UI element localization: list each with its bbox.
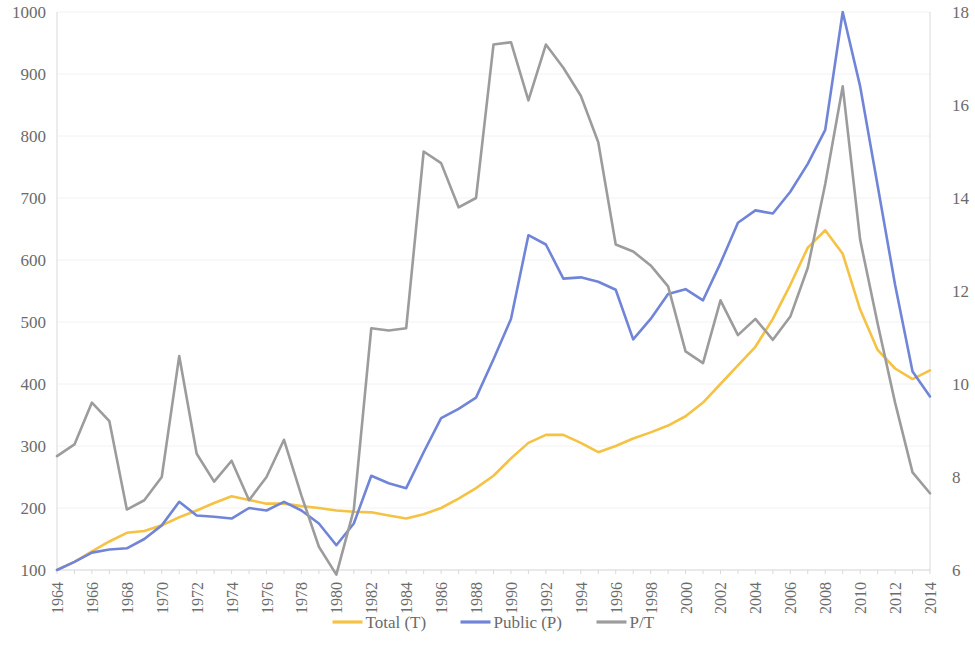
x-axis-tick-label: 1982	[363, 582, 380, 614]
x-axis-tick-label: 1996	[608, 582, 625, 614]
line-chart: 1002003004005006007008009001000 68101214…	[0, 0, 975, 653]
right-axis-tick-label: 8	[952, 468, 961, 487]
left-axis-tick-label: 500	[21, 313, 47, 332]
x-axis-tick-label: 1984	[398, 582, 415, 614]
right-axis-tick-label: 14	[952, 189, 970, 208]
x-axis-tick-label: 2010	[852, 582, 869, 614]
x-axis-tick-label: 1986	[433, 582, 450, 614]
left-axis-tick-label: 1000	[12, 3, 46, 22]
left-axis-tick-label: 900	[21, 65, 47, 84]
legend-item-1[interactable]: Public (P)	[461, 613, 562, 632]
legend-label: P/T	[630, 613, 655, 632]
x-axis-tick-label: 1966	[84, 582, 101, 614]
x-axis-tick-label: 1968	[119, 582, 136, 614]
series-line-pt	[57, 42, 930, 574]
legend-label: Total (T)	[366, 613, 427, 632]
x-axis-tick-label: 2002	[712, 582, 729, 614]
left-axis-tick-label: 800	[21, 127, 47, 146]
x-axis-tick-label: 2012	[887, 582, 904, 614]
chart-container: 1002003004005006007008009001000 68101214…	[0, 0, 975, 653]
x-axis-labels-group: 1964196619681970197219741976197819801982…	[49, 582, 939, 614]
x-axis-tick-label: 1988	[468, 582, 485, 614]
chart-legend: Total (T)Public (P)P/T	[333, 613, 655, 632]
x-axis-tick-label: 2014	[922, 582, 939, 614]
left-axis-tick-label: 200	[21, 499, 47, 518]
right-axis-tick-label: 6	[952, 561, 961, 580]
x-axis-tick-label: 2004	[747, 582, 764, 614]
legend-label: Public (P)	[494, 613, 562, 632]
x-axis-tick-label: 1990	[503, 582, 520, 614]
x-axis-tick-label: 1964	[49, 582, 66, 614]
right-axis-tick-label: 10	[952, 375, 969, 394]
left-axis-tick-label: 700	[21, 189, 47, 208]
x-axis-tick-label: 1980	[328, 582, 345, 614]
left-axis-tick-label: 300	[21, 437, 47, 456]
x-axis-tick-label: 1976	[259, 582, 276, 614]
x-axis-tick-label: 2006	[782, 582, 799, 614]
left-axis-tick-label: 100	[21, 561, 47, 580]
x-axis-tick-label: 1978	[293, 582, 310, 614]
x-axis-tick-label: 2008	[817, 582, 834, 614]
data-series-group	[57, 12, 930, 575]
legend-item-2[interactable]: P/T	[597, 613, 655, 632]
right-axis-tick-label: 18	[952, 3, 969, 22]
left-axis-labels-group: 1002003004005006007008009001000	[12, 3, 46, 580]
right-axis-tick-label: 12	[952, 282, 969, 301]
x-axis-tick-label: 1994	[573, 582, 590, 614]
x-axis-tick-label: 1970	[154, 582, 171, 614]
x-axis-tick-label: 1974	[224, 582, 241, 614]
right-axis-labels-group: 681012141618	[952, 3, 970, 580]
right-axis-tick-label: 16	[952, 96, 969, 115]
x-axis-tick-label: 1972	[189, 582, 206, 614]
x-axis-tick-label: 2000	[678, 582, 695, 614]
left-axis-tick-label: 600	[21, 251, 47, 270]
left-axis-tick-label: 400	[21, 375, 47, 394]
legend-item-0[interactable]: Total (T)	[333, 613, 427, 632]
x-axis-tick-label: 1992	[538, 582, 555, 614]
x-axis-tick-label: 1998	[643, 582, 660, 614]
